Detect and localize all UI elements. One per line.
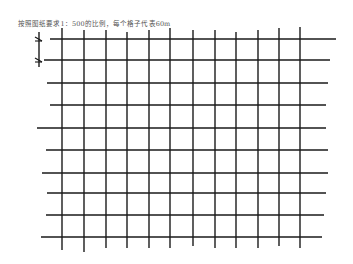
grid-diagram xyxy=(0,0,353,264)
